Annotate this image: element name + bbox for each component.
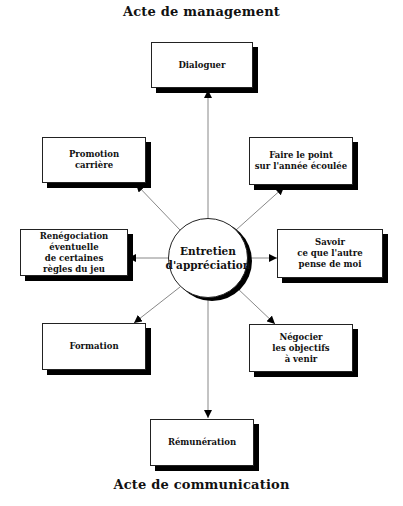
arrow-to-faire-le-point (236, 187, 284, 230)
node-remuneration: Rémunération (150, 419, 254, 466)
node-faire-le-point: Faire le point sur l'année écoulée (249, 137, 353, 185)
bottom-title: Acte de communication (0, 477, 403, 492)
node-negocier: Négocier les objectifs à venir (249, 324, 353, 372)
arrow-to-negocier (236, 287, 275, 324)
center-label: Entretien d'appréciation (166, 244, 251, 272)
node-label: Dialoguer (178, 60, 225, 71)
node-label: Renégociation éventuelle de certaines rè… (40, 231, 109, 275)
node-savoir: Savoir ce que l'autre pense de moi (277, 229, 383, 278)
node-label: Savoir ce que l'autre pense de moi (297, 237, 362, 270)
node-dialoguer: Dialoguer (151, 42, 253, 88)
node-label: Promotion carrière (69, 149, 119, 171)
node-renegociation: Renégociation éventuelle de certaines rè… (20, 229, 128, 276)
node-label: Formation (69, 341, 118, 352)
node-label: Négocier les objectifs à venir (272, 332, 329, 365)
arrow-to-formation (134, 287, 180, 323)
node-formation: Formation (42, 323, 146, 370)
arrow-to-promotion (136, 184, 180, 230)
node-label: Rémunération (168, 437, 236, 448)
center-node-entretien: Entretien d'appréciation (168, 218, 248, 298)
node-promotion: Promotion carrière (42, 137, 146, 183)
node-label: Faire le point sur l'année écoulée (255, 150, 347, 172)
